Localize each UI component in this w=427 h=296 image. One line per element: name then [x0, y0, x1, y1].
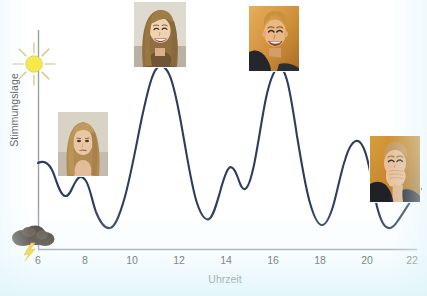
- x-tick-16: 16: [267, 254, 279, 266]
- photo-teen-laughing: [249, 6, 299, 71]
- x-tick-22: 22: [406, 254, 418, 266]
- storm-cloud-icon: [8, 223, 58, 261]
- x-tick-8: 8: [82, 254, 88, 266]
- photo-girl-neutral: [58, 112, 108, 176]
- x-axis-title: Uhrzeit: [208, 273, 241, 285]
- x-tick-12: 12: [173, 254, 185, 266]
- photo-person-yawning: [370, 136, 420, 202]
- x-tick-10: 10: [126, 254, 138, 266]
- x-tick-18: 18: [314, 254, 326, 266]
- x-tick-14: 14: [220, 254, 232, 266]
- sun-icon: [11, 41, 57, 87]
- x-tick-20: 20: [361, 254, 373, 266]
- photo-girl-smiling: [134, 2, 186, 67]
- mood-curve-figure: 6 8 10 12 14 16 18 20 22 Uhrzeit Stimmun…: [0, 0, 427, 296]
